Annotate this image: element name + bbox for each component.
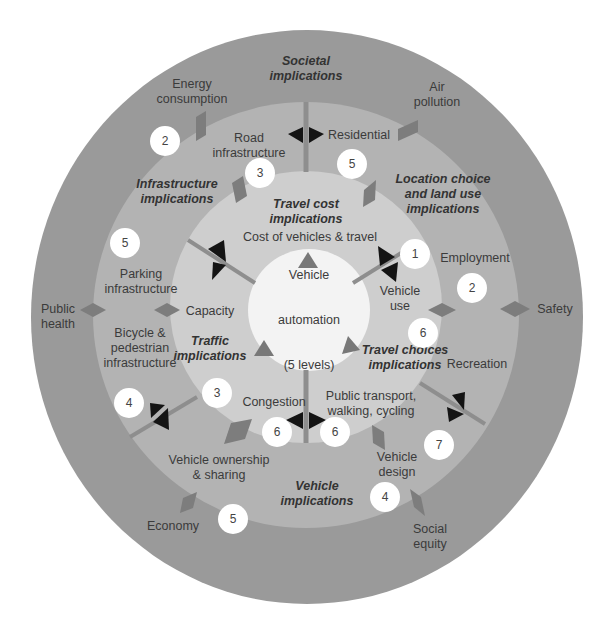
item-parking-infrastructure: Parking infrastructure bbox=[105, 267, 178, 297]
item-bicycle-pedestrian: Bicycle & pedestrian infrastructure bbox=[104, 326, 177, 371]
badge-bicycle: 4 bbox=[114, 388, 144, 418]
item-social-equity: Social equity bbox=[413, 522, 447, 552]
item-recreation: Recreation bbox=[447, 357, 507, 372]
badge-economy: 5 bbox=[218, 504, 248, 534]
badge-road-infrastructure: 3 bbox=[245, 158, 275, 188]
category-infrastructure: Infrastructure implications bbox=[136, 177, 217, 207]
item-safety: Safety bbox=[537, 302, 572, 317]
item-residential: Residential bbox=[328, 128, 390, 143]
item-cost-of-vehicles: Cost of vehicles & travel bbox=[243, 230, 377, 245]
item-public-transport: Public transport, walking, cycling bbox=[326, 389, 416, 419]
item-air-pollution: Air pollution bbox=[414, 80, 461, 110]
badge-congestion: 6 bbox=[262, 417, 292, 447]
category-travel-cost: Travel cost implications bbox=[270, 197, 343, 227]
badge-energy: 2 bbox=[150, 126, 180, 156]
center-line-3: (5 levels) bbox=[278, 358, 340, 373]
badge-public-transport: 6 bbox=[320, 417, 350, 447]
item-vehicle-use: Vehicle use bbox=[380, 284, 420, 314]
center-line-1: Vehicle bbox=[278, 268, 340, 283]
item-employment: Employment bbox=[440, 251, 509, 266]
item-vehicle-ownership: Vehicle ownership & sharing bbox=[169, 453, 270, 483]
item-economy: Economy bbox=[147, 519, 199, 534]
item-energy-consumption: Energy consumption bbox=[157, 77, 228, 107]
badge-recreation: 7 bbox=[424, 430, 454, 460]
badge-employment-inner: 1 bbox=[400, 239, 430, 269]
center-label: Vehicle automation (5 levels) bbox=[278, 238, 340, 388]
item-public-health: Public health bbox=[41, 302, 75, 332]
badge-vehicle-use: 6 bbox=[408, 318, 438, 348]
center-line-2: automation bbox=[278, 313, 340, 328]
badge-vehicle-design: 4 bbox=[370, 482, 400, 512]
category-traffic: Traffic implications bbox=[174, 334, 247, 364]
badge-traffic: 3 bbox=[202, 378, 232, 408]
item-congestion: Congestion bbox=[242, 395, 305, 410]
badge-employment: 2 bbox=[457, 273, 487, 303]
category-travel-choices: Travel choices implications bbox=[362, 343, 449, 373]
item-road-infrastructure: Road infrastructure bbox=[213, 131, 286, 161]
item-capacity: Capacity bbox=[186, 304, 235, 319]
item-vehicle-design: Vehicle design bbox=[377, 450, 417, 480]
category-societal: Societal implications bbox=[270, 54, 343, 84]
badge-parking: 5 bbox=[110, 228, 140, 258]
badge-residential: 5 bbox=[337, 149, 367, 179]
category-vehicle: Vehicle implications bbox=[281, 479, 354, 509]
category-location: Location choice and land use implication… bbox=[395, 172, 490, 217]
